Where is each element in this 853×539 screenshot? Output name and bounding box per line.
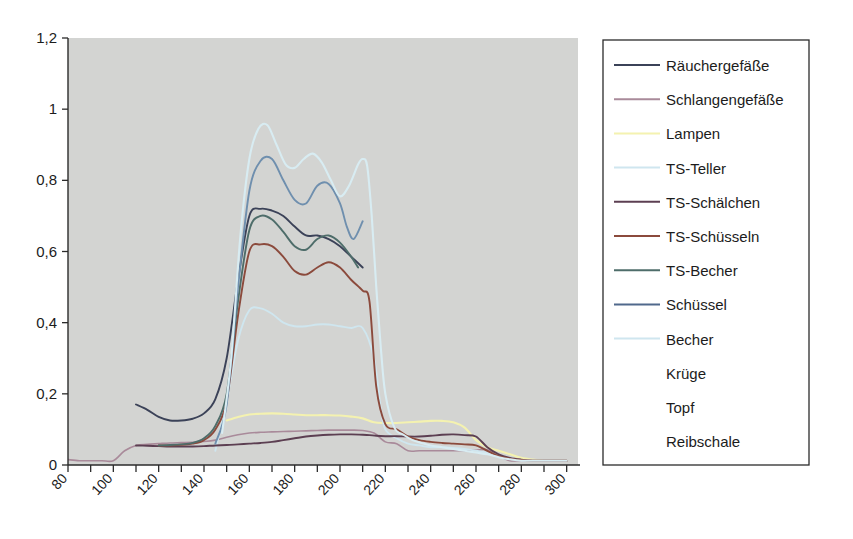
y-tick-label: 0,8 [36, 171, 57, 188]
legend-label-10: Topf [666, 399, 695, 416]
y-tick-label: 0,6 [36, 243, 57, 260]
legend-label-9: Krüge [666, 365, 706, 382]
x-tick-label: 80 [48, 470, 70, 492]
y-tick-label: 0 [49, 456, 57, 473]
legend-label-5: TS-Schüsseln [666, 228, 759, 245]
legend-label-3: TS-Teller [666, 160, 726, 177]
x-tick-label: 220 [360, 470, 388, 498]
line-chart: 00,20,40,60,811,2 8010012014016018020022… [0, 0, 853, 539]
y-axis-tick-labels: 00,20,40,60,811,2 [36, 29, 57, 473]
chart-page: 00,20,40,60,811,2 8010012014016018020022… [0, 0, 853, 539]
legend: RäuchergefäßeSchlangengefäßeLampenTS-Tel… [603, 40, 809, 465]
legend-label-1: Schlangengefäße [666, 91, 784, 108]
legend-label-8: Becher [666, 331, 714, 348]
y-tick-label: 0,2 [36, 385, 57, 402]
y-tick-label: 0,4 [36, 314, 57, 331]
x-tick-label: 240 [405, 470, 433, 498]
x-tick-label: 100 [88, 470, 116, 498]
legend-label-0: Räuchergefäße [666, 57, 769, 74]
x-tick-label: 300 [541, 470, 569, 498]
x-tick-label: 280 [496, 470, 524, 498]
x-tick-label: 120 [133, 470, 161, 498]
legend-label-6: TS-Becher [666, 262, 738, 279]
x-tick-label: 180 [269, 470, 297, 498]
x-axis-tick-labels: 80100120140160180200220240260280300 [48, 470, 569, 498]
legend-label-2: Lampen [666, 125, 720, 142]
legend-label-11: Reibschale [666, 433, 740, 450]
x-tick-label: 160 [224, 470, 252, 498]
legend-label-4: TS-Schälchen [666, 194, 760, 211]
x-tick-label: 200 [315, 470, 343, 498]
legend-label-7: Schüssel [666, 296, 727, 313]
plot-background [68, 38, 578, 465]
x-tick-label: 260 [451, 470, 479, 498]
x-tick-label: 140 [179, 470, 207, 498]
y-tick-label: 1 [49, 100, 57, 117]
y-tick-label: 1,2 [36, 29, 57, 46]
